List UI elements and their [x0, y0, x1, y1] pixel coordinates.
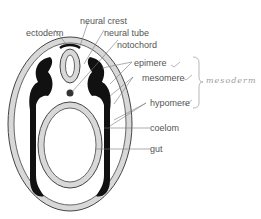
- annotation-mesoderm: mesoderm: [206, 76, 257, 85]
- gut-inner: [44, 108, 96, 182]
- label-mesomere: mesomere: [142, 73, 185, 83]
- label-neural-tube: neural tube: [104, 28, 149, 38]
- label-neural-crest: neural crest: [80, 16, 127, 26]
- label-hypomere: hypomere: [150, 98, 190, 108]
- notochord: [67, 90, 74, 97]
- label-ectoderm: ectoderm: [26, 28, 64, 38]
- label-gut: gut: [150, 144, 163, 154]
- label-notochord: notochord: [117, 40, 157, 50]
- label-coelom: coelom: [150, 123, 179, 133]
- label-epimere: epimere: [134, 58, 167, 68]
